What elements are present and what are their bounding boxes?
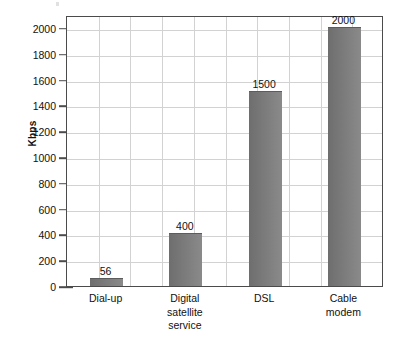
gridline-vertical	[321, 17, 322, 286]
x-axis-category-label: DSL	[254, 292, 274, 306]
bar	[249, 91, 282, 286]
bar-value-label: 56	[100, 265, 112, 277]
bar	[90, 278, 123, 286]
x-axis-category-label: Digital satellite service	[167, 292, 203, 333]
bar-value-label: 2000	[332, 14, 355, 26]
gridline-vertical	[226, 17, 227, 286]
x-axis-category-label: Cable modem	[326, 292, 361, 319]
bar-value-label: 1500	[252, 78, 275, 90]
bar-chart: Kbps 02004006008001000120014001600180020…	[0, 0, 395, 348]
plot-inner	[67, 17, 382, 286]
plot-area	[66, 16, 383, 287]
gridline-vertical	[289, 17, 290, 286]
gridline-vertical	[130, 17, 131, 286]
bar-value-label: 400	[176, 220, 194, 232]
x-axis-category-label: Dial-up	[89, 292, 122, 306]
bar	[169, 233, 202, 286]
bar	[328, 27, 361, 286]
gridline-vertical	[162, 17, 163, 286]
gridline-vertical	[99, 17, 100, 286]
